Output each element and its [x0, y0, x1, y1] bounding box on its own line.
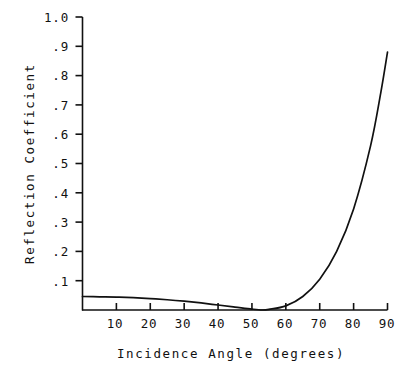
y-tick-marks [76, 17, 83, 281]
plot-area [0, 0, 409, 377]
reflection-coefficient-curve [83, 52, 388, 310]
chart-figure: Reflection Coefficient Incidence Angle (… [0, 0, 409, 377]
